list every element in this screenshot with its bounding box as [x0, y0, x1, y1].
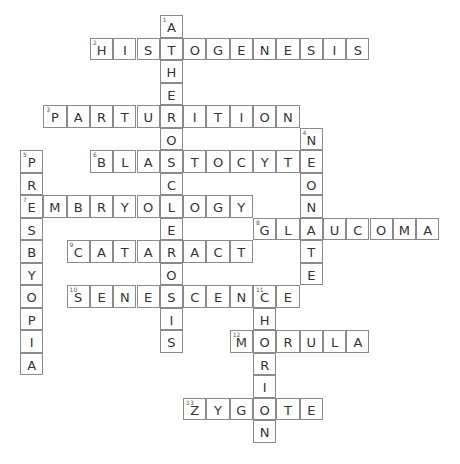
grid-cell[interactable]: R [253, 353, 276, 376]
grid-cell[interactable]: N [253, 38, 276, 61]
grid-cell[interactable]: T [206, 105, 229, 128]
grid-cell[interactable]: I [160, 308, 183, 331]
grid-cell[interactable]: M [43, 195, 66, 218]
grid-cell[interactable]: Y [113, 195, 136, 218]
grid-cell[interactable]: O [160, 263, 183, 286]
grid-cell[interactable]: T [300, 240, 323, 263]
grid-cell[interactable]: C [183, 285, 206, 308]
grid-cell[interactable]: R [20, 173, 43, 196]
grid-cell[interactable]: G [206, 38, 229, 61]
grid-cell[interactable]: A [90, 240, 113, 263]
grid-cell[interactable]: C [346, 218, 369, 241]
grid-cell[interactable]: E [160, 83, 183, 106]
grid-cell[interactable]: I [113, 38, 136, 61]
grid-cell[interactable]: O [253, 398, 276, 421]
grid-cell[interactable]: H [160, 60, 183, 83]
grid-cell[interactable]: N [276, 105, 299, 128]
grid-cell[interactable]: O [370, 218, 393, 241]
grid-cell[interactable]: P3 [43, 105, 66, 128]
grid-cell[interactable]: H2 [90, 38, 113, 61]
grid-cell[interactable]: A1 [160, 15, 183, 38]
grid-cell[interactable]: I [20, 330, 43, 353]
grid-cell[interactable]: G [230, 398, 253, 421]
grid-cell[interactable]: E [160, 218, 183, 241]
grid-cell[interactable]: U [300, 330, 323, 353]
grid-cell[interactable]: P5 [20, 150, 43, 173]
grid-cell[interactable]: L [276, 218, 299, 241]
grid-cell[interactable]: I [183, 105, 206, 128]
grid-cell[interactable]: N [230, 285, 253, 308]
grid-cell[interactable]: E [300, 150, 323, 173]
grid-cell[interactable]: E [90, 285, 113, 308]
grid-cell[interactable]: L [113, 150, 136, 173]
grid-cell[interactable]: H [253, 308, 276, 331]
grid-cell[interactable]: O [137, 195, 160, 218]
grid-cell[interactable]: E [230, 38, 253, 61]
grid-cell[interactable]: S [300, 38, 323, 61]
grid-cell[interactable]: A [137, 150, 160, 173]
grid-cell[interactable]: B6 [90, 150, 113, 173]
grid-cell[interactable]: A [183, 240, 206, 263]
grid-cell[interactable]: O [253, 105, 276, 128]
grid-cell[interactable]: B [67, 195, 90, 218]
grid-cell[interactable]: E [276, 38, 299, 61]
grid-cell[interactable]: U [137, 105, 160, 128]
grid-cell[interactable]: S [160, 285, 183, 308]
grid-cell[interactable]: C [206, 240, 229, 263]
grid-cell[interactable]: T [113, 240, 136, 263]
grid-cell[interactable]: R [90, 105, 113, 128]
grid-cell[interactable]: I [230, 105, 253, 128]
grid-cell[interactable]: E [137, 285, 160, 308]
grid-cell[interactable]: T [113, 105, 136, 128]
grid-cell[interactable]: E7 [20, 195, 43, 218]
grid-cell[interactable]: C [160, 173, 183, 196]
grid-cell[interactable]: Y [206, 398, 229, 421]
grid-cell[interactable]: O [183, 195, 206, 218]
grid-cell[interactable]: R [160, 105, 183, 128]
grid-cell[interactable]: A [20, 353, 43, 376]
grid-cell[interactable]: L [323, 330, 346, 353]
grid-cell[interactable]: N [253, 420, 276, 443]
grid-cell[interactable]: N4 [300, 128, 323, 151]
grid-cell[interactable]: N [113, 285, 136, 308]
grid-cell[interactable]: A [416, 218, 439, 241]
grid-cell[interactable]: I [253, 375, 276, 398]
grid-cell[interactable]: N [300, 195, 323, 218]
grid-cell[interactable]: L [160, 195, 183, 218]
grid-cell[interactable]: O [253, 330, 276, 353]
grid-cell[interactable]: S [137, 38, 160, 61]
grid-cell[interactable]: T [276, 398, 299, 421]
grid-cell[interactable]: A [300, 218, 323, 241]
grid-cell[interactable]: E [206, 285, 229, 308]
grid-cell[interactable]: A [346, 330, 369, 353]
grid-cell[interactable]: T [183, 150, 206, 173]
grid-cell[interactable]: G8 [253, 218, 276, 241]
grid-cell[interactable]: S [20, 218, 43, 241]
grid-cell[interactable]: B [20, 240, 43, 263]
grid-cell[interactable]: T [230, 240, 253, 263]
grid-cell[interactable]: Y [230, 195, 253, 218]
grid-cell[interactable]: C9 [67, 240, 90, 263]
grid-cell[interactable]: A [67, 105, 90, 128]
grid-cell[interactable]: S10 [67, 285, 90, 308]
grid-cell[interactable]: T [160, 38, 183, 61]
grid-cell[interactable]: P [20, 308, 43, 331]
grid-cell[interactable]: O [183, 38, 206, 61]
grid-cell[interactable]: R [276, 330, 299, 353]
grid-cell[interactable]: I [323, 38, 346, 61]
grid-cell[interactable]: T [276, 150, 299, 173]
grid-cell[interactable]: Y [20, 263, 43, 286]
grid-cell[interactable]: Y [253, 150, 276, 173]
grid-cell[interactable]: M [393, 218, 416, 241]
grid-cell[interactable]: E [276, 285, 299, 308]
grid-cell[interactable]: U [323, 218, 346, 241]
grid-cell[interactable]: S [346, 38, 369, 61]
grid-cell[interactable]: E [300, 398, 323, 421]
grid-cell[interactable]: O [160, 128, 183, 151]
grid-cell[interactable]: Z13 [183, 398, 206, 421]
grid-cell[interactable]: S [160, 330, 183, 353]
grid-cell[interactable]: R [160, 240, 183, 263]
grid-cell[interactable]: O [300, 173, 323, 196]
grid-cell[interactable]: G [206, 195, 229, 218]
grid-cell[interactable]: S [160, 150, 183, 173]
